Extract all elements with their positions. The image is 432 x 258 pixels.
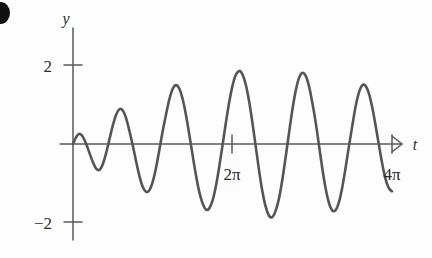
figure-container: y t 2 −2 2π 4π xyxy=(0,0,432,258)
y-tick-label-2: 2 xyxy=(44,57,53,76)
plot-canvas: y t 2 −2 2π 4π xyxy=(0,0,432,258)
y-tick-label-minus-2: −2 xyxy=(34,214,52,233)
x-tick-label-2pi: 2π xyxy=(223,165,241,184)
t-axis-label: t xyxy=(413,136,418,153)
x-tick-label-4pi: 4π xyxy=(383,165,401,184)
y-axis-label: y xyxy=(60,10,70,28)
